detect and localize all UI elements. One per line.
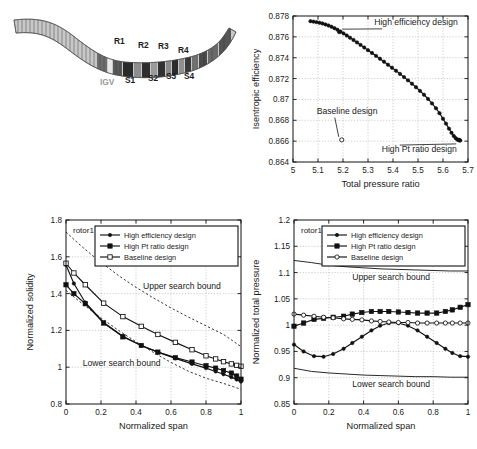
series-marker	[369, 309, 373, 313]
point-annotation: Baseline design	[317, 106, 378, 116]
series-marker	[387, 320, 391, 324]
series-marker	[204, 364, 208, 368]
series-marker	[348, 36, 351, 39]
series-marker	[434, 107, 437, 110]
series-marker	[173, 340, 177, 344]
legend-marker	[335, 233, 338, 236]
y-tick-label: 0.9	[279, 374, 291, 383]
x-tick-label: 0.8	[428, 408, 440, 417]
grid-lines	[293, 16, 468, 162]
axes-frame	[293, 16, 468, 162]
pareto-front-chart: High efficiency designBaseline designHig…	[247, 4, 477, 194]
series-marker	[425, 321, 429, 325]
series-marker	[410, 82, 413, 85]
series-0	[292, 321, 469, 358]
y-tick-label: 1.4	[51, 290, 63, 299]
series-marker	[345, 34, 348, 37]
blade-row-label-r4: R4	[178, 45, 189, 55]
series-marker	[366, 49, 369, 52]
series-marker	[382, 60, 385, 63]
y-tick-label: 0.864	[269, 158, 290, 167]
series-marker	[312, 354, 315, 357]
series-marker	[450, 308, 454, 312]
x-tick-label: 1	[466, 408, 471, 417]
series-marker	[402, 75, 405, 78]
highlight-point-0: High efficiency design	[338, 17, 458, 34]
series-marker	[302, 350, 305, 353]
highlight-marker	[458, 138, 461, 141]
series-marker	[363, 46, 366, 49]
series-marker	[72, 271, 76, 275]
x-tick-label: 5.7	[462, 166, 474, 175]
x-tick-label: 0.4	[358, 408, 370, 417]
y-axis-label: Normalized total pressure	[251, 260, 261, 365]
series-marker	[342, 32, 345, 35]
series-marker	[360, 310, 364, 314]
series-marker	[387, 309, 391, 313]
y-tick-label: 0.876	[269, 33, 290, 42]
series-marker	[418, 89, 421, 92]
series-marker	[301, 321, 305, 325]
point-annotation: High Pt ratio design	[382, 144, 457, 154]
legend-item-label: High Pt ratio design	[124, 242, 189, 251]
series-marker	[301, 313, 305, 317]
x-tick-label: 0.6	[165, 408, 177, 417]
plot-annotation-1: Lower search bound	[83, 358, 161, 368]
series-marker	[342, 347, 345, 350]
series-marker	[443, 321, 447, 325]
series-marker	[450, 321, 454, 325]
x-tick-label: 0	[64, 408, 69, 417]
series-marker	[234, 374, 238, 378]
meridional-view-panel: IGVR1S1R2S2R3S3R4S4	[0, 0, 240, 100]
series-marker	[430, 102, 433, 105]
legend-item-label: High efficiency design	[124, 231, 196, 240]
blade-row-label-s4: S4	[184, 71, 194, 81]
plot-annotation-0: Upper search bound	[143, 281, 221, 291]
y-tick-label: 1.15	[274, 242, 290, 251]
series-marker	[415, 311, 419, 315]
series-marker	[139, 343, 143, 347]
series-marker	[350, 312, 354, 316]
series-marker	[351, 341, 354, 344]
series-marker	[156, 350, 160, 354]
series-marker	[426, 97, 429, 100]
normalized-total-pressure-chart: Upper search boundLower search boundroto…	[248, 208, 477, 446]
x-tick-label: 5.6	[437, 166, 449, 175]
series-marker	[121, 335, 125, 339]
blade-row-label-r3: R3	[158, 41, 169, 51]
series-marker	[190, 348, 194, 352]
y-tick-label: 1.2	[279, 216, 291, 225]
series-marker	[406, 320, 410, 324]
x-tick-label: 0.4	[130, 408, 142, 417]
series-0	[309, 20, 462, 143]
series-marker	[458, 354, 461, 357]
series-marker	[386, 63, 389, 66]
x-tick-label: 5.1	[312, 166, 324, 175]
series-marker	[458, 321, 462, 325]
x-tick-label: 0.2	[95, 408, 107, 417]
legend-item-label: Baseline design	[351, 253, 403, 262]
series-marker	[72, 282, 75, 285]
blade-row-label-r1: R1	[114, 36, 125, 46]
x-tick-label: 0.2	[323, 408, 335, 417]
series-marker	[221, 368, 225, 372]
series-marker	[229, 362, 233, 366]
y-tick-label: 0.95	[274, 347, 290, 356]
series-marker	[156, 332, 160, 336]
plot-annotation-0: Upper search bound	[352, 272, 430, 282]
y-tick-label: 1.6	[51, 253, 63, 262]
series-marker	[321, 315, 325, 319]
series-marker	[425, 335, 428, 338]
series-marker	[101, 321, 105, 325]
series-marker	[173, 355, 177, 359]
series-marker	[190, 360, 194, 364]
series-marker	[415, 321, 419, 325]
y-tick-label: 1	[285, 321, 290, 330]
y-tick-label: 1.05	[274, 295, 290, 304]
x-axis-label: Normalized span	[119, 421, 188, 431]
y-axis-label: Normalized solidity	[25, 273, 35, 351]
series-marker	[341, 317, 345, 321]
blade-row-label-r2: R2	[138, 40, 149, 50]
series-marker	[438, 111, 441, 114]
series-marker	[406, 79, 409, 82]
